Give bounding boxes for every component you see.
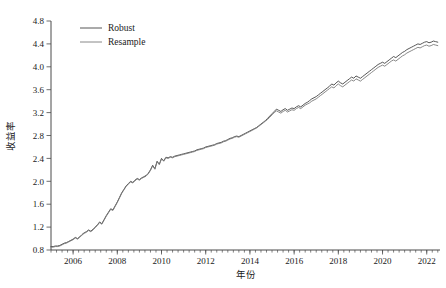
x-axis-tick-label: 2018 <box>329 256 348 266</box>
x-axis-tick-label: 2010 <box>153 256 172 266</box>
x-axis-major-ticks <box>73 250 427 255</box>
chart-legend: RobustResample <box>80 23 145 47</box>
legend-label-robust: Robust <box>108 23 135 33</box>
y-axis-tick-label: 1.2 <box>33 222 44 232</box>
legend-label-resample: Resample <box>108 37 145 47</box>
y-axis-tick-labels: 0.81.21.62.02.42.83.23.64.04.44.8 <box>33 16 45 255</box>
y-axis-tick-label: 4.0 <box>33 62 45 72</box>
y-axis-major-ticks <box>47 21 52 250</box>
axis-spines <box>51 21 440 250</box>
y-axis-tick-label: 2.4 <box>33 154 45 164</box>
chart-container: 200620082010201220142016201820202022 0.8… <box>0 0 446 288</box>
x-axis-tick-label: 2012 <box>197 256 215 266</box>
return-rate-line-chart: 200620082010201220142016201820202022 0.8… <box>0 0 446 288</box>
x-axis-tick-label: 2014 <box>241 256 260 266</box>
y-axis-tick-label: 3.2 <box>33 108 44 118</box>
y-axis-tick-label: 4.8 <box>33 16 45 26</box>
x-axis-tick-labels: 200620082010201220142016201820202022 <box>64 256 436 266</box>
y-axis-tick-label: 2.8 <box>33 131 45 141</box>
y-axis-tick-label: 3.6 <box>33 85 45 95</box>
y-axis-title: 收益率 <box>5 121 16 151</box>
data-series-group <box>51 41 438 247</box>
x-axis-tick-label: 2006 <box>64 256 83 266</box>
x-axis-tick-label: 2016 <box>285 256 304 266</box>
x-axis-tick-label: 2008 <box>108 256 127 266</box>
series-line-robust <box>51 41 438 247</box>
y-axis-tick-label: 1.6 <box>33 199 45 209</box>
y-axis-tick-label: 4.4 <box>33 39 45 49</box>
x-axis-tick-label: 2020 <box>374 256 393 266</box>
x-axis-title: 年份 <box>236 269 256 280</box>
y-axis-tick-label: 0.8 <box>33 245 45 255</box>
y-axis-tick-label: 2.0 <box>33 177 45 187</box>
series-line-resample <box>51 44 438 247</box>
x-axis-tick-label: 2022 <box>418 256 436 266</box>
